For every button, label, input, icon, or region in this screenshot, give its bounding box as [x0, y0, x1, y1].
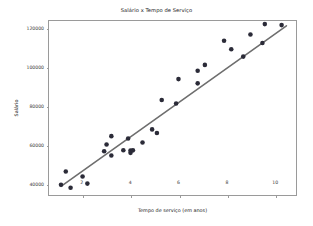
data-point	[155, 131, 160, 136]
data-point	[279, 23, 284, 28]
plot-area	[48, 20, 297, 196]
data-point	[248, 32, 253, 37]
data-point	[195, 81, 200, 86]
data-point	[174, 101, 179, 106]
data-point	[195, 68, 200, 73]
data-point	[104, 142, 109, 147]
y-tick-mark	[47, 185, 50, 186]
x-tick-mark	[131, 195, 132, 198]
data-point	[102, 149, 107, 154]
data-point	[176, 77, 181, 82]
data-point	[131, 148, 136, 153]
data-point	[85, 181, 90, 186]
x-tick-label: 4	[129, 180, 132, 185]
chart-figure: Salário x Tempo de Serviço Salário Tempo…	[0, 0, 313, 226]
y-tick-mark	[47, 68, 50, 69]
data-point	[126, 136, 131, 141]
y-tick-label: 120000	[26, 25, 44, 30]
y-tick-mark	[47, 29, 50, 30]
x-tick-label: 2	[80, 180, 83, 185]
data-point	[263, 22, 268, 27]
x-tick-label: 10	[272, 180, 278, 185]
data-point	[203, 63, 208, 68]
chart-title: Salário x Tempo de Serviço	[0, 7, 313, 13]
data-point	[159, 98, 164, 103]
data-point	[109, 153, 114, 158]
y-tick-mark	[47, 107, 50, 108]
data-point	[150, 127, 155, 132]
data-point	[241, 54, 246, 59]
y-axis-label-container: Salário	[17, 20, 27, 196]
y-tick-label: 60000	[29, 143, 44, 148]
x-tick-mark	[276, 195, 277, 198]
data-point	[68, 186, 73, 191]
data-point	[80, 174, 85, 179]
data-point	[121, 148, 126, 153]
data-point	[140, 140, 145, 145]
regression-line	[61, 26, 286, 186]
x-axis-label: Tempo de serviço (em anos)	[48, 207, 297, 213]
y-tick-label: 80000	[29, 104, 44, 109]
x-tick-label: 8	[225, 180, 228, 185]
y-tick-mark	[47, 146, 50, 147]
x-tick-mark	[83, 195, 84, 198]
x-tick-mark	[228, 195, 229, 198]
x-tick-label: 6	[177, 180, 180, 185]
plot-canvas	[49, 21, 296, 195]
data-point	[229, 47, 234, 52]
data-point	[222, 38, 227, 43]
y-tick-label: 40000	[29, 182, 44, 187]
regression-line-path	[61, 26, 286, 186]
x-tick-mark	[180, 195, 181, 198]
y-tick-label: 100000	[26, 64, 44, 69]
data-point	[260, 41, 265, 46]
data-point	[64, 169, 69, 174]
y-axis-label: Salário	[13, 100, 19, 117]
data-point	[59, 182, 64, 187]
data-point	[109, 134, 114, 139]
